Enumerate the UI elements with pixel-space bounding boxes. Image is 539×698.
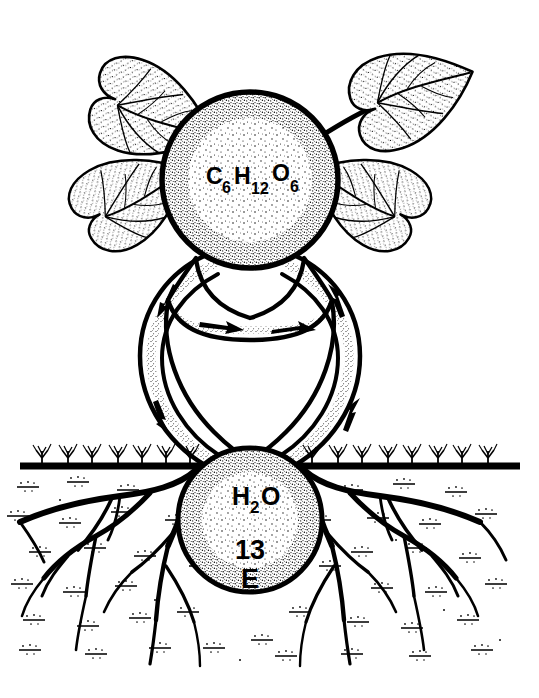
water-element-h: H xyxy=(232,482,250,510)
water-subscript-h: 2 xyxy=(250,498,259,517)
water-node: H 2 O 13 E xyxy=(170,440,330,600)
water-element-o: O xyxy=(261,482,280,510)
glucose-element-c: C xyxy=(206,163,223,189)
plant-vascular-diagram: H 2 O 13 E C 6 xyxy=(0,0,539,698)
water-node-number: 13 xyxy=(235,535,265,565)
water-node-letter: E xyxy=(241,564,259,594)
diagram-canvas: H 2 O 13 E C 6 xyxy=(0,0,539,698)
glucose-element-h: H xyxy=(234,163,251,189)
glucose-subscript-o: 6 xyxy=(290,178,299,195)
glucose-subscript-h: 12 xyxy=(251,180,269,197)
glucose-element-o: O xyxy=(272,160,290,186)
glucose-node: C 6 H 12 O 6 xyxy=(156,86,344,274)
glucose-subscript-c: 6 xyxy=(222,179,231,196)
